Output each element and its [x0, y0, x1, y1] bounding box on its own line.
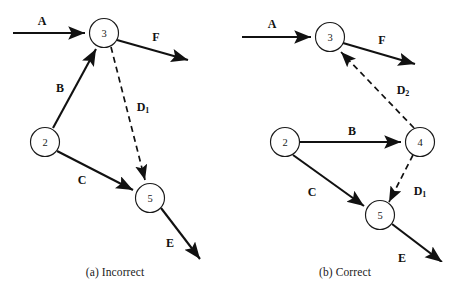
edge-label-a-C: C [78, 173, 87, 187]
edge-label-b-D1-base: D [414, 184, 423, 198]
edge-label-a-D1: D1 [137, 100, 150, 115]
node-b-2-label: 2 [282, 137, 287, 148]
node-b-3-label: 3 [327, 32, 332, 43]
edge-label-b-D1-sub: 1 [422, 190, 426, 199]
network-diagram-b: 3 2 4 5 A F B C E D2 D1 [230, 0, 460, 262]
node-a-5-label: 5 [147, 193, 152, 204]
edge-label-a-E: E [166, 236, 174, 250]
caption-b: (b) Correct [230, 266, 460, 278]
edge-label-a-F: F [152, 30, 159, 44]
edge-label-b-D2-base: D [397, 83, 406, 97]
figure-canvas: 3 2 5 A F B C E D1 (a) Incorrect [0, 0, 460, 298]
edge-label-b-D1: D1 [414, 184, 427, 199]
edge-label-a-D1-sub: 1 [145, 106, 149, 115]
edge-label-a-D1-base: D [137, 100, 146, 114]
edge-label-a-B: B [56, 81, 64, 95]
edge-label-b-B: B [348, 124, 356, 138]
edge-label-b-F: F [378, 33, 385, 47]
diagram-panel-a: 3 2 5 A F B C E D1 (a) Incorrect [0, 0, 230, 298]
edge-a-E [161, 208, 200, 259]
edge-b-D1 [389, 155, 413, 202]
node-a-2-label: 2 [42, 137, 47, 148]
edge-label-a-A: A [38, 14, 47, 28]
node-b-5-label: 5 [377, 210, 382, 221]
edge-label-b-C: C [308, 185, 317, 199]
caption-a: (a) Incorrect [0, 266, 230, 278]
edge-label-b-A: A [268, 17, 277, 31]
edge-b-C [293, 155, 364, 206]
node-a-3-label: 3 [101, 28, 106, 39]
edge-label-b-D2-sub: 2 [405, 89, 409, 98]
edge-label-b-E: E [398, 251, 406, 262]
edge-a-C [57, 151, 133, 190]
node-b-4-label: 4 [417, 137, 423, 148]
network-diagram-a: 3 2 5 A F B C E D1 [0, 0, 230, 262]
edge-label-b-D2: D2 [397, 83, 410, 98]
diagram-panel-b: 3 2 4 5 A F B C E D2 D1 (b) Correct [230, 0, 460, 298]
